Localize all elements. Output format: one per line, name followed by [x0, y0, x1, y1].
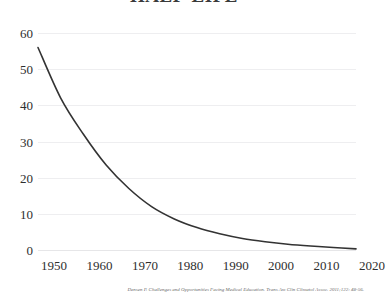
y-tick-label: 60	[5, 27, 33, 40]
y-axis: 60 50 40 30 20 10 0	[0, 33, 33, 250]
x-tick-label: 2010	[305, 259, 349, 273]
y-tick-label: 30	[5, 136, 33, 149]
x-tick-label: 1980	[168, 259, 212, 273]
series-path-half-life	[38, 47, 356, 248]
y-tick-label: 10	[5, 208, 33, 221]
x-tick-label: 2020	[350, 259, 390, 273]
data-series-line	[38, 33, 356, 250]
gridline-baseline	[38, 250, 356, 251]
x-tick-label: 1990	[214, 259, 258, 273]
y-tick-label: 50	[5, 63, 33, 76]
x-tick-label: 2000	[259, 259, 303, 273]
y-tick-label: 40	[5, 99, 33, 112]
plot-area	[38, 33, 356, 250]
x-tick-label: 1970	[123, 259, 167, 273]
citation-footnote: Densen P. Challenges and Opportunities F…	[0, 286, 368, 293]
x-axis: 1950 1960 1970 1980 1990 2000 2010 2020	[38, 259, 356, 277]
x-tick-label: 1950	[32, 259, 76, 273]
x-tick-label: 1960	[77, 259, 121, 273]
y-tick-label: 20	[5, 172, 33, 185]
chart-title: HALF-LIFE	[0, 0, 368, 6]
y-tick-label: 0	[5, 244, 33, 257]
